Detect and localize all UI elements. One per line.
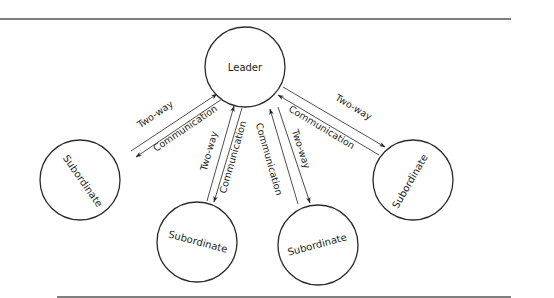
link-leader-right: Two-way Communication — [278, 87, 385, 155]
leader-node: Leader — [205, 27, 285, 107]
subordinate-node-center-right: Subordinate — [278, 205, 358, 285]
leader-label: Leader — [228, 62, 263, 73]
subordinate-node-right: Subordinate — [373, 140, 453, 220]
subordinate-node-center-left: Subordinate — [157, 202, 237, 282]
link-label-two-way: Two-way — [197, 130, 219, 173]
link-label-two-way: Two-way — [333, 91, 375, 122]
link-label-communication: Communication — [217, 120, 248, 195]
link-label-communication: Communication — [254, 122, 285, 197]
leader-communication-diagram: Two-way Communication Two-way Communicat… — [0, 0, 554, 298]
link-label-two-way: Two-way — [290, 127, 313, 170]
subordinate-node-left: Subordinate — [40, 140, 120, 220]
